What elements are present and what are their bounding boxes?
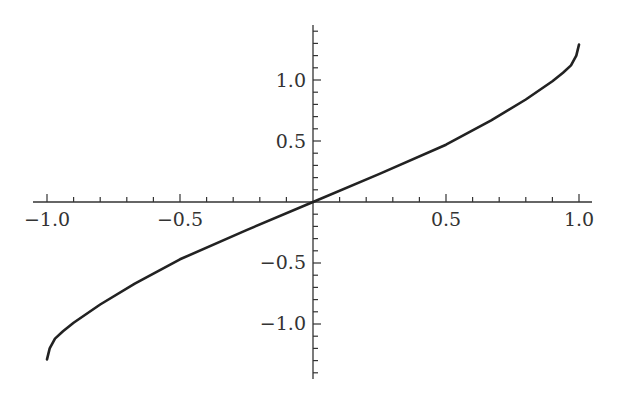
line-chart: −1.0 −0.5 0.5 1.0 1.0 0.5 −0.5 −1.0 — [0, 0, 621, 399]
x-tick-label: 0.5 — [431, 208, 461, 230]
y-tick-label: −1.0 — [260, 312, 306, 334]
x-tick-label: −1.0 — [24, 208, 70, 230]
y-tick-label: 0.5 — [276, 130, 306, 152]
x-tick-label: −0.5 — [157, 208, 203, 230]
y-tick-label: −0.5 — [260, 251, 306, 273]
x-tick-label: 1.0 — [564, 208, 594, 230]
y-tick-label: 1.0 — [276, 69, 306, 91]
